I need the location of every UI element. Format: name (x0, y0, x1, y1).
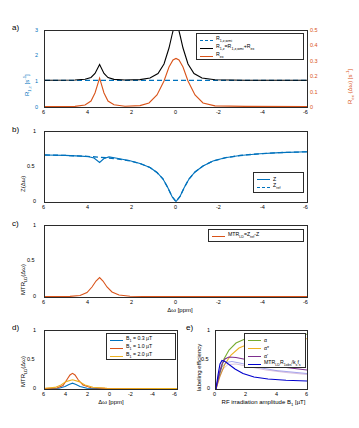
panel-d-xlabel: Δω [ppm] (71, 399, 151, 405)
panel-a-xtick-2: 2 (130, 109, 133, 115)
panel-a-ytick-3: 3 (35, 27, 38, 33)
legend-item: α* (248, 344, 302, 352)
panel-e-xlabel: RF irradiation amplitude B1 [µT] (211, 399, 316, 407)
legend-label: MTRLD=Zref-Z (228, 230, 259, 241)
panel-d-xtick-m4: -4 (150, 391, 155, 397)
panel-c-xtick-6: 6 (42, 299, 45, 305)
panel-c-xtick-m2: -2 (216, 299, 221, 305)
legend-label: α (264, 336, 267, 344)
panel-c-ylabel: MTRLD(Δω) (20, 264, 28, 295)
panel-c-label: c) (12, 219, 19, 228)
legend-swatch-solid-purple (248, 356, 261, 357)
panel-b-ylabel: Z(Δω) (20, 176, 26, 192)
legend-label: Rex (216, 50, 224, 61)
panel-c-xtick-2: 2 (130, 299, 133, 305)
panel-e-xtick-2: 2 (244, 391, 247, 397)
legend-item: B1 = 2.0 µT (110, 352, 172, 360)
legend-swatch-dashed-blue (200, 40, 213, 41)
panel-e-ytick-0: 0 (207, 385, 210, 391)
panel-e-xtick-6: 6 (305, 391, 308, 397)
panel-d-xtick-m2: -2 (128, 391, 133, 397)
panel-b-ytick-0: 0 (33, 198, 36, 204)
panel-a-ytick-1: 1 (35, 78, 38, 84)
panel-e-label: e) (186, 323, 193, 332)
legend-label: MTRLDR1obs/ksfs (264, 358, 301, 369)
legend-label: α* (264, 344, 269, 352)
panel-b-label: b) (12, 125, 19, 134)
panel-b-xtick-4: 4 (86, 204, 89, 210)
panel-d-xtick-2: 2 (86, 391, 89, 397)
panel-b-xtick-m4: -4 (260, 204, 265, 210)
panel-b-xtick-6: 6 (42, 204, 45, 210)
panel-a-ytick-right-0: 0 (310, 104, 313, 110)
panel-a-ytick-2: 2 (35, 52, 38, 58)
panel-d-ytick-0: 0 (33, 385, 36, 391)
panel-c-xtick-4: 4 (86, 299, 89, 305)
legend-swatch-dashed-blue (257, 187, 270, 188)
panel-a-ytick-right-02: 0.2 (310, 73, 318, 79)
legend-swatch-solid-orange (110, 348, 123, 349)
panel-a-xtick-6: 6 (42, 109, 45, 115)
panel-d-label: d) (12, 323, 19, 332)
panel-c-xtick-0: 0 (174, 299, 177, 305)
panel-c-xtick-m6: -6 (303, 299, 308, 305)
panel-c-ytick-0: 0 (33, 293, 36, 299)
panel-a-xtick-4: 4 (86, 109, 89, 115)
panel-a-label: a) (12, 23, 19, 32)
panel-a-ylabel-left: R1,z [s-1] (22, 74, 32, 96)
panel-a-xtick-m2: -2 (216, 109, 221, 115)
panel-d-xtick-4: 4 (64, 391, 67, 397)
panel-a-xtick-m4: -4 (260, 109, 265, 115)
panel-b-ytick-05: 0.5 (27, 163, 35, 169)
panel-d-xtick-0: 0 (108, 391, 111, 397)
panel-e-xtick-0: 0 (213, 391, 216, 397)
panel-a-ytick-right-04: 0.4 (310, 42, 318, 48)
legend-label: B1 = 2.0 µT (126, 350, 152, 361)
panel-b-xtick-0: 0 (174, 204, 177, 210)
panel-b-legend: Z Zref (253, 172, 304, 193)
panel-a-xtick-m6: -6 (303, 109, 308, 115)
panel-d-xtick-6: 6 (42, 391, 45, 397)
panel-a-legend: R1,z,wmi R1,z=R1,z,wmi+Rex Rex (196, 33, 304, 60)
panel-a-ytick-0: 0 (35, 104, 38, 110)
legend-swatch-solid-darkblue (248, 364, 261, 365)
panel-e-ytick-1: 1 (207, 327, 210, 333)
legend-label: Zref (273, 181, 280, 192)
panel-d-ylabel: MTRLD(Δω) (20, 356, 28, 387)
panel-b-xtick-2: 2 (130, 204, 133, 210)
panel-a-ytick-right-05: 0.5 (310, 27, 318, 33)
panel-c-xlabel: Δω [ppm] (140, 307, 220, 313)
panel-c-xtick-m4: -4 (260, 299, 265, 305)
panel-a-xtick-0: 0 (174, 109, 177, 115)
panel-d-legend: B1 = 0.3 µT B1 = 1.0 µT B1 = 2.0 µT (106, 333, 176, 360)
legend-swatch-solid-yellow (248, 348, 261, 349)
panel-e-xtick-4: 4 (275, 391, 278, 397)
panel-a-ytick-right-01: 0.1 (310, 89, 318, 95)
panel-e-ytick-05: 0.5 (201, 356, 209, 362)
legend-swatch-solid-black (200, 48, 213, 49)
panel-d-ytick-1: 1 (33, 327, 36, 333)
legend-item: R1,z=R1,z,wmi+Rex (200, 44, 300, 52)
panel-a-ytick-right-03: 0.3 (310, 58, 318, 64)
panel-b-ytick-1: 1 (33, 128, 36, 134)
panel-a-ylabel-right: Rex (Δω) [s-1] (345, 69, 355, 104)
legend-swatch-solid-blue (257, 179, 270, 180)
panel-e-legend: α α* α' MTRLDR1obs/ksfs (244, 333, 306, 368)
legend-item: Zref (257, 183, 300, 191)
legend-item: MTRLDR1obs/ksfs (248, 360, 302, 368)
legend-swatch-solid-yellow (110, 356, 123, 357)
panel-d-xtick-m6: -6 (172, 391, 177, 397)
legend-swatch-solid-green (248, 340, 261, 341)
panel-c-ytick-05: 0.5 (27, 257, 35, 263)
legend-swatch-solid-blue (110, 340, 123, 341)
figure-root: a) 3 2 1 0 0.5 0.4 0.3 0.2 0.1 0 6 4 2 0… (0, 0, 359, 428)
panel-b-xtick-m2: -2 (216, 204, 221, 210)
legend-item: α (248, 336, 302, 344)
panel-b-xtick-m6: -6 (303, 204, 308, 210)
legend-item: MTRLD=Zref-Z (212, 232, 300, 240)
panel-c-ytick-1: 1 (33, 222, 36, 228)
panel-e-ylabel: labeling efficiency (196, 344, 202, 391)
panel-c-legend: MTRLD=Zref-Z (208, 229, 304, 242)
legend-swatch-solid-orange (200, 56, 213, 57)
legend-swatch-solid-orange (212, 236, 225, 237)
